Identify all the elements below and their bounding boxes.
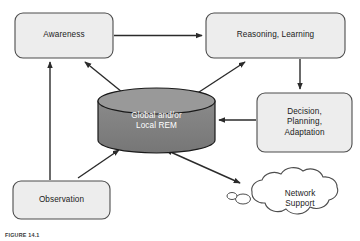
cloud-shape bbox=[252, 168, 338, 214]
node-layer bbox=[13, 13, 352, 219]
node-reasoning[interactable] bbox=[206, 13, 345, 58]
node-network[interactable] bbox=[227, 168, 338, 214]
edge-observation-to-repository bbox=[78, 150, 119, 178]
diagram-canvas bbox=[0, 0, 360, 241]
node-decision[interactable] bbox=[257, 93, 352, 152]
node-repository[interactable] bbox=[98, 88, 215, 153]
cloud-bubble-medium bbox=[236, 194, 251, 204]
figure-caption: FIGURE 14.1 bbox=[5, 232, 40, 238]
figure-container: Awareness Reasoning, Learning Decision, … bbox=[0, 0, 360, 241]
cylinder-top bbox=[98, 88, 215, 114]
node-awareness[interactable] bbox=[15, 13, 113, 58]
edge-repository-to-reasoning bbox=[196, 62, 245, 94]
node-observation[interactable] bbox=[13, 181, 110, 219]
cloud-bubble-small bbox=[227, 193, 237, 200]
edge-repository-to-network bbox=[166, 150, 240, 183]
edge-repository-to-awareness bbox=[85, 62, 122, 92]
